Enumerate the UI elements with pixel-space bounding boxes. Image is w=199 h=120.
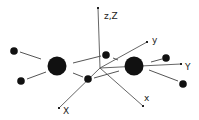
axis-X-label: X bbox=[63, 106, 69, 116]
bonds bbox=[20, 52, 178, 81]
axis-Y-label: Y bbox=[184, 62, 191, 72]
small-atom-h3 bbox=[102, 51, 110, 59]
axis-X-line bbox=[59, 68, 100, 108]
small-atom-h4 bbox=[84, 75, 92, 83]
bond-line bbox=[27, 72, 46, 79]
axis-x-tip bbox=[142, 105, 144, 107]
molecule-axes-diagram: z,ZyYxX bbox=[0, 0, 199, 120]
large-atom-heavy-right bbox=[125, 57, 144, 76]
axis-X-tip bbox=[58, 107, 60, 109]
axis-y-label: y bbox=[152, 35, 158, 45]
bond-line bbox=[20, 52, 41, 59]
bond-line bbox=[151, 59, 162, 62]
small-atom-h2 bbox=[17, 77, 25, 85]
axis-y-tip bbox=[146, 41, 148, 43]
small-atom-h6 bbox=[179, 80, 187, 88]
atoms bbox=[10, 47, 187, 88]
axis-x-label: x bbox=[144, 93, 150, 103]
bond-line bbox=[149, 70, 178, 81]
axis-z-label: z,Z bbox=[104, 11, 118, 21]
axis-z-line bbox=[98, 8, 100, 68]
large-atom-heavy-left bbox=[48, 57, 67, 76]
small-atom-h1 bbox=[10, 47, 18, 55]
axis-z-tip bbox=[97, 7, 99, 9]
bond-line bbox=[73, 56, 101, 63]
small-atom-h5 bbox=[162, 54, 170, 62]
bond-line bbox=[94, 71, 119, 78]
axis-Y-tip bbox=[180, 63, 182, 65]
bond-line bbox=[73, 73, 83, 77]
